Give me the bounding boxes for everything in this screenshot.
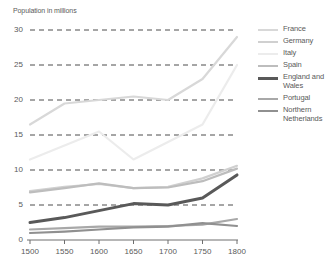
legend-swatch-icon (258, 41, 278, 43)
legend-swatch-icon (258, 29, 278, 31)
legend-label: Spain (283, 60, 302, 69)
legend-swatch-icon (258, 77, 278, 80)
legend-item[interactable]: Germany (258, 36, 334, 45)
series-line-england-and-wales (30, 175, 237, 223)
legend-item[interactable]: England and Wales (258, 72, 334, 90)
legend-label: Italy (283, 48, 296, 57)
legend-item[interactable]: Portugal (258, 93, 334, 102)
x-tick-label: 1550 (50, 247, 80, 256)
legend-item[interactable]: Spain (258, 60, 334, 69)
y-tick-label: 10 (5, 165, 23, 174)
legend-label: France (283, 24, 306, 33)
legend-swatch-icon (258, 98, 278, 100)
population-line-chart: Population in millions FranceGermanyItal… (0, 0, 334, 273)
y-tick-label: 15 (5, 130, 23, 139)
legend-item[interactable]: France (258, 24, 334, 33)
legend-item[interactable]: Northern Netherlands (258, 105, 334, 123)
x-tick-label: 1500 (15, 247, 45, 256)
legend-label: Germany (283, 36, 313, 45)
legend-label: England and Wales (283, 72, 334, 90)
legend-label: Portugal (283, 93, 310, 102)
y-tick-label: 5 (5, 200, 23, 209)
legend-swatch-icon (258, 65, 278, 67)
x-tick-label: 1650 (119, 247, 149, 256)
legend-label: Northern Netherlands (283, 105, 334, 123)
legend-swatch-icon (258, 53, 278, 55)
y-tick-label: 20 (5, 95, 23, 104)
series-line-spain (30, 169, 237, 193)
y-tick-label: 0 (5, 235, 23, 244)
x-tick-label: 1700 (153, 247, 183, 256)
x-tick-label: 1800 (222, 247, 252, 256)
series-line-italy (30, 65, 237, 160)
legend-swatch-icon (258, 110, 278, 112)
y-tick-label: 25 (5, 60, 23, 69)
x-tick-label: 1600 (84, 247, 114, 256)
legend-item[interactable]: Italy (258, 48, 334, 57)
chart-legend: FranceGermanyItalySpainEngland and Wales… (258, 24, 334, 126)
y-tick-label: 30 (5, 25, 23, 34)
series-line-france (30, 37, 237, 125)
x-tick-label: 1750 (188, 247, 218, 256)
